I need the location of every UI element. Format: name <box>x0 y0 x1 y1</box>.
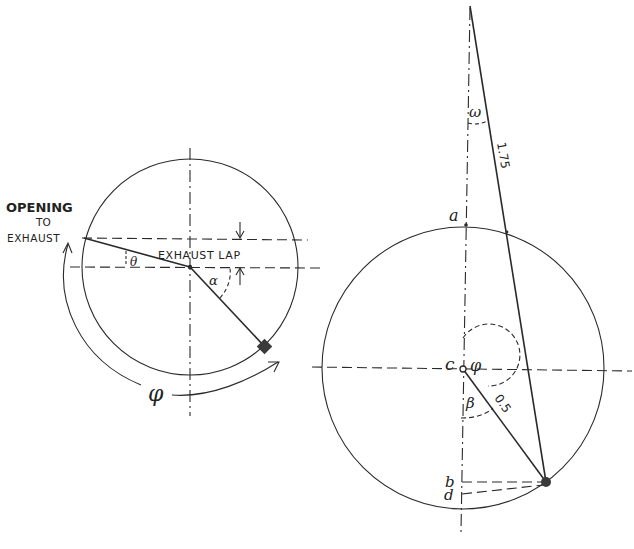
current-crank-line <box>190 267 265 347</box>
point-c-label: c <box>445 354 455 374</box>
center-c-marker <box>460 366 466 372</box>
valve-crank-diagrams: OPENING TO EXHAUST EXHAUST LAP θ α φ <box>0 0 634 549</box>
alpha-symbol: α <box>209 273 218 288</box>
beta-symbol: β <box>465 394 475 412</box>
exhaust-lap-line <box>82 238 308 240</box>
rod-length-label: 1.75 <box>494 141 512 170</box>
opening-label-line1: OPENING <box>6 200 73 215</box>
alpha-arc <box>220 268 230 298</box>
point-a-marker <box>464 223 468 227</box>
left-eccentric-diagram: OPENING TO EXHAUST EXHAUST LAP θ α φ <box>6 148 320 416</box>
opening-label-line3: EXHAUST <box>7 232 60 244</box>
point-a-label: a <box>449 206 459 225</box>
phi-arrow-head-start <box>63 243 72 253</box>
exhaust-lap-label: EXHAUST LAP <box>158 249 241 262</box>
right-crank-rod-diagram: a c b d ω φ β 1.75 0.5 <box>312 6 632 532</box>
phi-rotation-arc-2 <box>172 362 278 395</box>
phi-symbol-left: φ <box>148 381 164 406</box>
projection-line-d <box>462 485 543 494</box>
crank-line <box>463 369 546 482</box>
left-center-dot <box>188 265 192 269</box>
opening-label-line2: TO <box>35 216 51 228</box>
point-d-label: d <box>444 486 454 504</box>
right-vertical-centerline <box>461 8 470 532</box>
rod-circle-intersection <box>506 231 509 234</box>
crank-pin-dot <box>541 477 551 487</box>
theta-symbol: θ <box>130 255 138 269</box>
omega-symbol: ω <box>469 103 481 121</box>
phi-arc-right <box>463 324 520 386</box>
phi-symbol-right: φ <box>470 356 482 375</box>
left-horizontal-centerline <box>70 267 320 268</box>
